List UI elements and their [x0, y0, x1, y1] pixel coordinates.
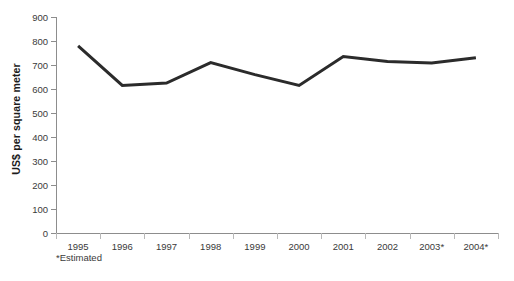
y-axis-tick-label: 400 — [32, 132, 48, 143]
x-axis-tick-label: 2004* — [463, 241, 488, 252]
plot-area: 9008007006005004003002001000 19951996199… — [56, 17, 498, 233]
x-axis-tick — [498, 233, 499, 239]
x-axis-tick-label: 1997 — [156, 241, 177, 252]
y-axis-title: US$ per square meter — [8, 14, 24, 224]
x-axis-tick-label: 2000 — [289, 241, 310, 252]
y-axis-title-label: US$ per square meter — [10, 63, 22, 175]
x-axis-tick — [277, 233, 278, 239]
x-axis-tick-label: 1996 — [112, 241, 133, 252]
x-axis-tick — [189, 233, 190, 239]
y-axis-tick-label: 0 — [43, 228, 48, 239]
x-axis-tick — [365, 233, 366, 239]
footnote: *Estimated — [56, 252, 102, 263]
x-axis-tick-label: 1995 — [68, 241, 89, 252]
y-axis-tick-label: 100 — [32, 204, 48, 215]
x-axis-tick — [233, 233, 234, 239]
x-axis-tick — [56, 233, 57, 239]
x-axis-tick — [410, 233, 411, 239]
x-axis-tick-label: 2001 — [333, 241, 354, 252]
x-axis-tick-label: 2003* — [419, 241, 444, 252]
x-axis-tick — [454, 233, 455, 239]
y-axis-tick-label: 500 — [32, 108, 48, 119]
x-axis-tick-label: 1999 — [244, 241, 265, 252]
x-axis-tick-label: 2002 — [377, 241, 398, 252]
line-chart: US$ per square meter 9008007006005004003… — [0, 0, 514, 281]
data-series-line — [56, 17, 498, 233]
y-axis-tick-label: 800 — [32, 36, 48, 47]
x-axis-tick — [321, 233, 322, 239]
y-axis-tick-label: 200 — [32, 180, 48, 191]
x-axis-tick — [144, 233, 145, 239]
x-axis-tick-label: 1998 — [200, 241, 221, 252]
y-axis-tick-label: 900 — [32, 12, 48, 23]
y-axis-tick-label: 300 — [32, 156, 48, 167]
series-polyline — [78, 46, 476, 86]
x-axis-tick — [100, 233, 101, 239]
y-axis-tick-label: 700 — [32, 60, 48, 71]
y-axis-tick-label: 600 — [32, 84, 48, 95]
